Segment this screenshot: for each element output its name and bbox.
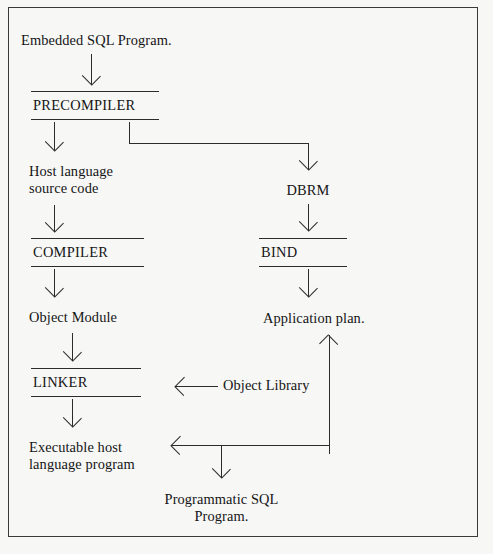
arrow-object-module-to-linker-shaft	[72, 333, 73, 361]
branch-precompiler-to-dbrm-span	[129, 143, 308, 144]
node-precompiler-label: PRECOMPILER	[31, 97, 159, 114]
node-compiler-label: COMPILER	[31, 244, 144, 261]
arrow-embedded-to-precompiler-shaft	[91, 54, 92, 85]
node-embedded-sql-program: Embedded SQL Program.	[21, 32, 172, 49]
arrow-linker-to-executable-shaft	[72, 399, 73, 427]
node-object-module: Object Module	[29, 309, 117, 326]
diagram-page: Embedded SQL Program. PRECOMPILER Host l…	[0, 0, 493, 554]
arrow-compiler-to-object-module-shaft	[54, 269, 55, 297]
node-programmatic-sql-program: Programmatic SQL Program.	[156, 491, 287, 525]
branch-precompiler-to-dbrm-drop	[129, 122, 130, 143]
diagram-frame: Embedded SQL Program. PRECOMPILER Host l…	[8, 7, 478, 537]
node-compiler: COMPILER	[31, 238, 144, 267]
node-linker-label: LINKER	[31, 374, 141, 391]
arrow-object-library-shaft	[175, 386, 218, 387]
node-precompiler: PRECOMPILER	[31, 91, 159, 120]
arrow-to-programmatic-sql-shaft	[221, 445, 222, 478]
arrow-host-to-compiler-shaft	[54, 205, 55, 232]
node-host-language-source-code: Host language source code	[29, 163, 113, 197]
node-object-library: Object Library	[223, 377, 310, 394]
arrow-precompiler-to-host-shaft	[54, 122, 55, 151]
node-bind-label: BIND	[259, 244, 347, 261]
node-bind: BIND	[259, 238, 347, 267]
node-application-plan: Application plan.	[263, 310, 365, 327]
arrow-to-executable-shaft	[171, 445, 330, 446]
node-dbrm: DBRM	[268, 182, 348, 199]
node-executable-host-language-program: Executable host language program	[29, 439, 135, 473]
arrow-to-application-plan-shaft	[329, 335, 330, 454]
branch-precompiler-to-dbrm-shaft	[308, 143, 309, 170]
node-linker: LINKER	[31, 368, 141, 397]
arrow-bind-to-application-plan-shaft	[308, 269, 309, 297]
arrow-dbrm-to-bind-shaft	[308, 204, 309, 231]
